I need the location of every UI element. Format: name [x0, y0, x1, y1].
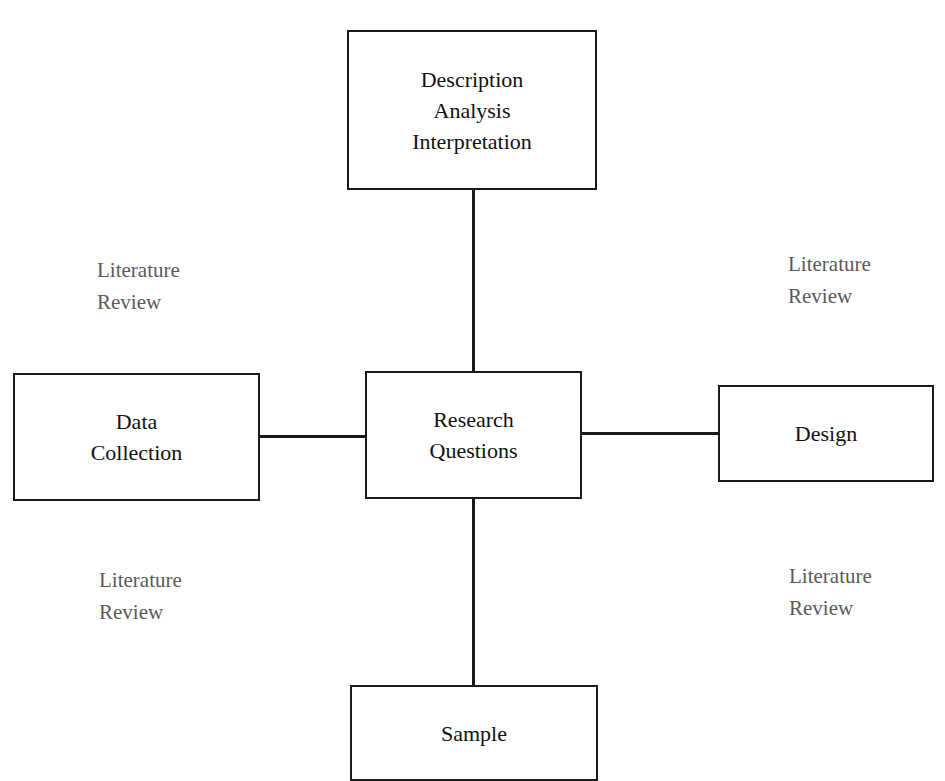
node-label-line: Sample	[441, 718, 507, 749]
node-design: Design	[718, 385, 934, 482]
connector-center-left	[258, 435, 366, 438]
annotation-literature-review-bottom-left: Literature Review	[99, 564, 182, 628]
node-research-questions: Research Questions	[365, 371, 582, 499]
node-label-line: Questions	[430, 435, 518, 466]
annotation-literature-review-top-left: Literature Review	[97, 254, 180, 318]
node-description-analysis-interpretation: Description Analysis Interpretation	[347, 30, 597, 190]
annotation-literature-review-top-right: Literature Review	[788, 248, 871, 312]
node-label-line: Description	[421, 64, 524, 95]
node-sample: Sample	[350, 685, 598, 781]
node-data-collection: Data Collection	[13, 373, 260, 501]
node-label-line: Collection	[91, 437, 183, 468]
annotation-literature-review-bottom-right: Literature Review	[789, 560, 872, 624]
node-label-line: Data	[116, 406, 158, 437]
connector-center-bottom	[472, 497, 475, 686]
node-label-line: Analysis	[434, 95, 511, 126]
node-label-line: Research	[433, 404, 514, 435]
connector-center-right	[580, 432, 719, 435]
node-label-line: Interpretation	[412, 126, 532, 157]
connector-center-top	[472, 189, 475, 372]
node-label-line: Design	[795, 418, 857, 449]
